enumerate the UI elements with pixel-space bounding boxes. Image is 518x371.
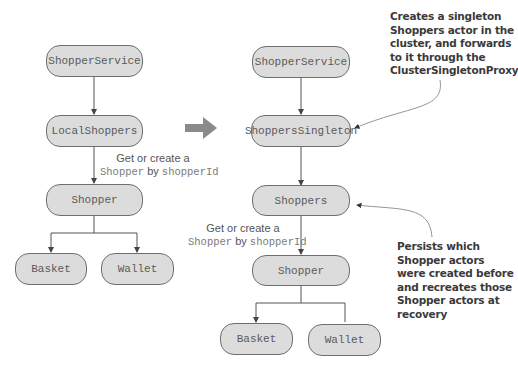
node-shopper-left: Shopper [46,184,143,216]
node-label: Shopper [278,265,324,277]
annotation-persist: Persists which Shopper actors were creat… [397,240,514,321]
node-label: ShopperService [255,56,347,68]
annotation-line: cluster, and forwards [390,37,518,51]
node-label: ShoppersSingleton [245,125,357,137]
node-wallet-right: Wallet [308,324,381,356]
annotation-line: Shopper actors at [397,294,514,308]
annotation-line: Persists which [397,240,514,254]
node-basket-left: Basket [15,253,87,285]
annotation-line: Shopper actors [397,254,514,268]
node-label: LocalShoppers [52,125,138,137]
annotation-line: and recreates those [397,281,514,295]
annotation-line: Creates a singleton [390,10,518,24]
node-label: Wallet [118,263,158,275]
node-wallet-left: Wallet [101,253,174,285]
annotation-line: to it through the [390,51,518,65]
annotation-line: recovery [397,308,514,322]
node-label: Shopper [71,194,117,206]
edge-label-line1: Get or create a [100,152,206,165]
node-basket-right: Basket [220,323,293,355]
edge-label-left: Get or create a Shopper by shopperId [100,152,206,179]
annotation-line: Shoppers actor in the [390,24,518,38]
node-label: Basket [237,333,277,345]
node-shoppers-singleton: ShoppersSingleton [251,115,351,147]
right-arrow-icon [185,117,217,139]
edge-label-by: by [232,235,250,247]
edge-label-by: by [144,165,162,177]
edge-label-code-shopperid: shopperId [250,236,307,248]
node-label: ShopperService [48,55,140,67]
edge-label-code-shopper: Shopper [100,166,144,178]
node-local-shoppers: LocalShoppers [46,115,143,147]
annotation-singleton: Creates a singleton Shoppers actor in th… [390,10,518,78]
node-shopper-right: Shopper [252,255,350,286]
node-shoppers: Shoppers [252,185,350,216]
annotation-line: were created before [397,267,514,281]
node-label: Wallet [325,334,365,346]
node-shopper-service-left: ShopperService [46,45,143,77]
edge-label-right: Get or create a Shopper by shopperId [188,222,298,249]
edge-label-line1: Get or create a [188,222,298,235]
node-label: Shoppers [275,195,328,207]
node-shopper-service-right: ShopperService [252,46,350,78]
annotation-line: ClusterSingletonProxy [390,64,518,78]
node-label: Basket [31,263,71,275]
edge-label-code-shopperid: shopperId [162,166,219,178]
edge-label-code-shopper: Shopper [188,236,232,248]
